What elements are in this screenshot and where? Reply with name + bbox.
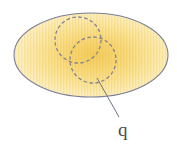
outer-region-group [0,0,177,144]
scan-stripe-overlay [0,0,177,144]
figure-root: q [0,0,177,144]
label-q: q [118,119,128,140]
diagram-canvas: q [0,0,177,144]
